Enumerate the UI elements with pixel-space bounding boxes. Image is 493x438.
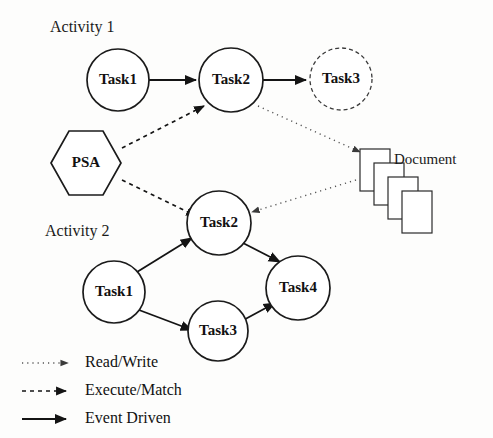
- node-a2-task1[interactable]: Task1: [83, 261, 145, 323]
- node-psa-label: PSA: [72, 154, 101, 170]
- edge-a2task2-to-a2task4: [243, 243, 280, 262]
- node-a2-task2-label: Task2: [200, 214, 238, 230]
- activity-flow-diagram: Activity 1 Task1 Task2 Task3: [0, 0, 493, 438]
- node-a2-task4-label: Task4: [279, 279, 317, 295]
- legend-item-execute-match: Execute/Match: [22, 381, 182, 398]
- legend-item-event-driven: Event Driven: [22, 409, 171, 426]
- node-a1-task1[interactable]: Task1: [87, 49, 149, 111]
- activity-1-label: Activity 1: [50, 18, 114, 36]
- edge-psa-to-a2task2: [122, 180, 196, 216]
- edge-psa-to-a1task2: [122, 106, 204, 148]
- activity-2-label: Activity 2: [45, 222, 109, 240]
- edge-a2task1-to-a2task3: [139, 310, 192, 330]
- node-psa[interactable]: PSA: [51, 131, 121, 195]
- node-a1-task1-label: Task1: [99, 71, 137, 87]
- legend-label-execute-match: Execute/Match: [85, 381, 182, 398]
- node-a2-task3-label: Task3: [199, 322, 237, 338]
- node-a2-task2[interactable]: Task2: [187, 191, 251, 255]
- node-a1-task2-label: Task2: [212, 71, 250, 87]
- legend: Read/Write Execute/Match Event Driven: [22, 353, 182, 426]
- legend-label-read-write: Read/Write: [85, 353, 158, 370]
- node-a2-task3[interactable]: Task3: [188, 301, 248, 361]
- document-label: Document: [394, 151, 457, 167]
- node-a1-task2[interactable]: Task2: [199, 48, 263, 112]
- document-page-4: [402, 191, 432, 233]
- node-a2-task1-label: Task1: [95, 283, 133, 299]
- edge-a1task2-to-document: [258, 106, 360, 152]
- edge-a2task1-to-a2task2: [137, 238, 192, 272]
- diagram-canvas: Activity 1 Task1 Task2 Task3: [0, 0, 493, 438]
- node-a1-task3-label: Task3: [322, 70, 360, 86]
- legend-label-event-driven: Event Driven: [85, 409, 171, 426]
- node-a2-task4[interactable]: Task4: [266, 256, 330, 320]
- edge-document-to-a2task2: [252, 180, 356, 212]
- node-a1-task3[interactable]: Task3: [310, 48, 372, 110]
- legend-item-read-write: Read/Write: [22, 353, 158, 370]
